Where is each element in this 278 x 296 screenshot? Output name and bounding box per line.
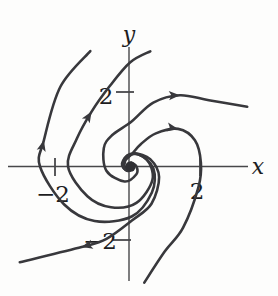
equilibrium-point-dot [125,161,135,171]
phase-portrait-figure: −222−2xy [0,0,278,296]
axes: −222−2xy [8,22,265,281]
x-axis-label: x [252,154,265,179]
y-axis-label: y [122,22,136,47]
x-axis-tick-label--2: −2 [36,181,70,207]
trajectory-left-inner [68,51,153,207]
trajectory-left-outer [39,51,155,222]
trajectory-right-inner [125,129,202,283]
flow-arrowhead-icon [82,109,96,123]
phase-portrait-svg: −222−2xy [0,0,278,296]
